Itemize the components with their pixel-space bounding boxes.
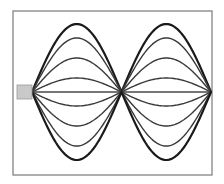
wave-snapshot-6 (32, 92, 211, 126)
vibrator-source (17, 85, 32, 99)
wave-snapshot-2 (32, 58, 211, 92)
wave-snapshot-0 (32, 24, 211, 92)
wave-snapshot-8 (32, 92, 211, 160)
standing-wave-diagram: Standing wave on a string (two loops, mu… (0, 0, 224, 184)
wave-snapshots (32, 24, 211, 160)
